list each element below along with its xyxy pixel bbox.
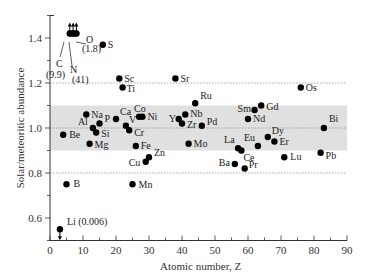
dot-marker xyxy=(86,141,92,147)
point-label: Nd xyxy=(253,113,265,124)
data-point-s: S xyxy=(100,39,114,50)
dot-marker xyxy=(179,120,185,126)
y-tick-label: 1.0 xyxy=(28,122,42,134)
point-label: Pd xyxy=(207,116,218,127)
dot-marker xyxy=(232,161,238,167)
point-label: Mo xyxy=(194,138,208,149)
point-label: Er xyxy=(279,136,289,147)
dot-marker xyxy=(271,138,277,144)
point-label: Bi xyxy=(329,113,339,124)
point-label: Na xyxy=(91,109,103,120)
dot-marker xyxy=(116,75,122,81)
dot-marker xyxy=(245,116,251,122)
dot-marker xyxy=(258,102,264,108)
point-label: Be xyxy=(69,129,81,140)
point-label: Fe xyxy=(141,140,152,151)
dot-marker xyxy=(281,154,287,160)
point-label: Lu xyxy=(290,151,301,162)
dot-marker xyxy=(63,181,69,187)
arrow-down-icon xyxy=(58,236,62,240)
arrow-up-icon xyxy=(68,23,72,27)
y-tick-label: 0.6 xyxy=(28,212,42,224)
dot-marker xyxy=(113,116,119,122)
label-n-value: (41) xyxy=(72,74,89,86)
data-point-ba: Ba xyxy=(219,157,238,168)
dot-marker xyxy=(119,84,125,90)
x-tick-label: 70 xyxy=(276,244,288,256)
point-label: Cr xyxy=(134,127,145,138)
data-point-sm: Sm xyxy=(238,103,258,114)
dot-marker xyxy=(265,134,271,140)
dot-marker xyxy=(298,84,304,90)
x-tick-label: 30 xyxy=(144,244,156,256)
scatter-chart: 0.60.81.01.21.40102030405060708090 C (9.… xyxy=(0,0,365,278)
dot-marker xyxy=(255,143,261,149)
y-tick-label: 0.8 xyxy=(28,167,42,179)
point-label: Mn xyxy=(139,179,153,190)
dot-marker xyxy=(317,150,323,156)
y-tick-label: 1.2 xyxy=(28,77,42,89)
point-label: Y xyxy=(169,113,176,124)
point-label: Co xyxy=(134,103,146,114)
x-tick-label: 90 xyxy=(342,244,354,256)
dot-marker xyxy=(251,107,257,113)
point-label: Sm xyxy=(238,103,252,114)
point-label: Os xyxy=(306,82,317,93)
point-label: Mg xyxy=(95,139,109,150)
x-tick-label: 10 xyxy=(78,244,90,256)
x-axis-title: Atomic number, Z xyxy=(160,260,241,272)
point-label: Dy xyxy=(272,125,284,136)
point-label: Pr xyxy=(249,159,259,170)
data-point-lu: Lu xyxy=(281,151,301,162)
dot-marker xyxy=(199,123,205,129)
label-o-value: (1.8) xyxy=(82,43,101,55)
point-label: Ni xyxy=(147,111,157,122)
point-label: Ba xyxy=(219,157,231,168)
arrow-up-icon xyxy=(74,23,78,27)
dot-marker xyxy=(146,154,152,160)
dot-marker xyxy=(172,75,178,81)
x-tick-label: 40 xyxy=(177,244,189,256)
point-label: Si xyxy=(101,128,110,139)
point-label: P xyxy=(105,113,111,124)
point-label: B xyxy=(74,178,81,189)
data-point-os: Os xyxy=(298,82,317,93)
point-label: V xyxy=(129,114,137,125)
point-label: Gd xyxy=(266,101,278,112)
arrow-up-icon xyxy=(71,23,75,27)
point-label: Sr xyxy=(180,73,190,84)
label-c-value: (9.9) xyxy=(46,69,65,81)
point-label: La xyxy=(224,134,235,145)
data-point-mn: Mn xyxy=(129,179,152,190)
label-c: C xyxy=(56,58,63,69)
dot-marker xyxy=(321,125,327,131)
point-label: Ru xyxy=(200,90,212,101)
point-label: Nb xyxy=(190,108,202,119)
dot-marker xyxy=(126,127,132,133)
data-point-sr: Sr xyxy=(172,73,190,84)
y-tick-label: 1.4 xyxy=(28,32,42,44)
point-label: Cu xyxy=(129,157,141,168)
dot-marker xyxy=(185,141,191,147)
dot-marker xyxy=(133,143,139,149)
point-label: Ti xyxy=(127,83,136,94)
dot-marker xyxy=(96,120,102,126)
dot-marker xyxy=(242,165,248,171)
point-label: Al xyxy=(78,116,88,127)
point-label: Zn xyxy=(154,147,165,158)
dot-marker xyxy=(60,132,66,138)
x-tick-label: 0 xyxy=(47,244,53,256)
data-point-li: Li (0.006) xyxy=(57,216,108,240)
data-point-cu: Cu xyxy=(129,157,149,168)
data-point-ru: Ru xyxy=(192,90,212,106)
y-axis-title: Solar/meteoritic abundance xyxy=(14,68,26,189)
x-tick-label: 20 xyxy=(111,244,123,256)
dot-marker xyxy=(100,42,106,48)
dot-marker xyxy=(182,111,188,117)
dot-marker xyxy=(93,129,99,135)
point-label: Zr xyxy=(187,119,197,130)
dot-marker xyxy=(139,114,145,120)
dot-marker xyxy=(129,181,135,187)
dot-marker xyxy=(192,100,198,106)
x-tick-label: 60 xyxy=(243,244,255,256)
